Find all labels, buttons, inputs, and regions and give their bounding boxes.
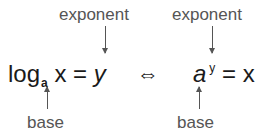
log-text: log <box>8 60 40 87</box>
log-equation: loga x = y <box>8 62 106 86</box>
right-base-arrow-icon <box>199 87 200 109</box>
right-exponent-arrow-icon <box>212 26 213 53</box>
log-equals: = <box>73 60 87 87</box>
right-exponent-label: exponent <box>172 6 242 23</box>
left-base-arrow-icon <box>47 87 48 109</box>
log-x: x <box>54 60 66 87</box>
exp-x: x <box>243 60 255 87</box>
left-exponent-label: exponent <box>59 6 129 23</box>
exp-base-a: a <box>193 60 206 87</box>
left-base-label: base <box>27 114 64 131</box>
equivalence-icon: ⇔ <box>137 63 159 85</box>
exp-equals: = <box>222 60 236 87</box>
left-exponent-arrow-icon <box>105 26 106 53</box>
log-y: y <box>94 60 106 87</box>
right-base-label: base <box>177 114 214 131</box>
exponential-equation: ay = x <box>193 62 255 86</box>
exp-superscript-y: y <box>209 61 215 75</box>
